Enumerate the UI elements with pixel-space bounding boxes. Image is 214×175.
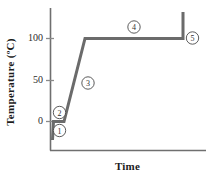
stage-marker-3-label: 3 (86, 79, 90, 88)
heating-curve-figure: 100 50 0 Temperature (ºC) Time 1 2 3 4 5 (0, 0, 214, 175)
y-axis-title: Temperature (ºC) (4, 38, 17, 126)
y-tick-label-50: 50 (33, 74, 43, 85)
heating-curve-line (53, 12, 184, 140)
stage-marker-5: 5 (186, 32, 198, 44)
stage-marker-1-label: 1 (58, 127, 62, 136)
temperature-vs-time-chart: 100 50 0 Temperature (ºC) Time 1 2 3 4 5 (0, 0, 214, 175)
x-axis-title: Time (115, 160, 140, 172)
stage-marker-2-label: 2 (58, 109, 62, 118)
stage-marker-5-label: 5 (191, 34, 195, 43)
stage-marker-4: 4 (128, 21, 140, 33)
stage-marker-1: 1 (53, 124, 65, 136)
stage-marker-3: 3 (82, 77, 94, 89)
y-tick-label-100: 100 (28, 32, 43, 43)
stage-marker-2: 2 (53, 106, 65, 118)
stage-marker-4-label: 4 (132, 23, 136, 32)
y-tick-label-0: 0 (38, 115, 43, 126)
